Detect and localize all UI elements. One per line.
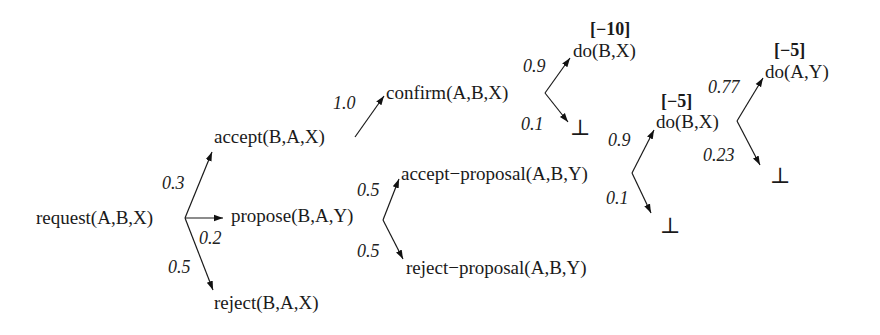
prob-accept-proposal-do-bx: 0.9 [608, 131, 631, 149]
reward-do-a-y: [−5] [774, 41, 805, 59]
reward-do-b-x-1: [−10] [590, 20, 630, 38]
prob-request-reject: 0.5 [168, 258, 191, 276]
edge-do-bx-do-ay [737, 78, 763, 121]
prob-request-accept: 0.3 [162, 174, 185, 192]
edge-propose-reject-proposal [383, 220, 403, 259]
prob-request-propose: 0.2 [199, 229, 222, 247]
edge-confirm-bottom [545, 93, 568, 122]
prob-propose-accept-proposal: 0.5 [357, 181, 380, 199]
edge-do-bx-bottom [737, 121, 760, 165]
node-accept: accept(B,A,X) [214, 127, 325, 146]
edge-accept-proposal-bottom [632, 173, 651, 213]
node-propose: propose(B,A,Y) [231, 206, 353, 225]
node-reject: reject(B,A,X) [214, 293, 318, 312]
node-bottom-3: ⊥ [770, 165, 791, 187]
edge-accept-proposal-do-bx [632, 130, 654, 173]
edge-accept-confirm [355, 96, 384, 137]
node-accept-proposal: accept−proposal(A,B,Y) [401, 164, 588, 183]
prob-do-bx-do-ay: 0.77 [708, 78, 740, 96]
prob-confirm-bottom: 0.1 [521, 115, 544, 133]
prob-accept-proposal-bottom: 0.1 [606, 189, 629, 207]
edge-confirm-do-bx [545, 58, 570, 93]
edge-propose-accept-proposal [383, 179, 399, 220]
prob-propose-reject-proposal: 0.5 [357, 242, 380, 260]
node-bottom-2: ⊥ [660, 215, 681, 237]
interaction-tree-diagram: request(A,B,X) accept(B,A,X) propose(B,A… [0, 0, 880, 335]
node-bottom-1: ⊥ [570, 117, 591, 139]
node-confirm: confirm(A,B,X) [386, 83, 508, 102]
node-reject-proposal: reject−proposal(A,B,Y) [406, 258, 587, 277]
prob-do-bx-bottom: 0.23 [703, 146, 735, 164]
prob-accept-confirm: 1.0 [333, 94, 356, 112]
node-do-a-y: do(A,Y) [765, 62, 829, 81]
node-do-b-x-2: do(B,X) [656, 112, 719, 131]
node-do-b-x-1: do(B,X) [573, 41, 636, 60]
node-request: request(A,B,X) [36, 208, 153, 227]
edge-request-accept [185, 152, 212, 218]
reward-do-b-x-2: [−5] [661, 92, 692, 110]
prob-confirm-do-bx: 0.9 [523, 57, 546, 75]
